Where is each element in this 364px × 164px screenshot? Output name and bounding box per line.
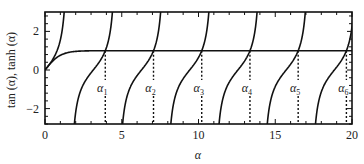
plot-frame bbox=[45, 12, 352, 124]
y-tick-label: −2 bbox=[26, 102, 39, 116]
y-tick-label: 0 bbox=[33, 63, 39, 77]
x-tick-label: 15 bbox=[269, 128, 281, 142]
root-label: α3 bbox=[194, 81, 204, 97]
y-axis-label: tan (α), tanh (α) bbox=[4, 32, 18, 108]
y-tick-label: 2 bbox=[33, 24, 39, 38]
x-tick-label: 20 bbox=[346, 128, 358, 142]
root-label: α6 bbox=[338, 81, 348, 97]
x-tick-label: 10 bbox=[193, 128, 205, 142]
root-guides: α1α2α3α4α5α6 bbox=[97, 51, 348, 124]
tanh-curve bbox=[45, 51, 352, 70]
x-tick-label: 5 bbox=[119, 128, 125, 142]
x-axis-label: α bbox=[195, 148, 202, 162]
x-tick-label: 0 bbox=[42, 128, 48, 142]
chart: α1α2α3α4α5α6 05101520−202 α tan (α), tan… bbox=[0, 0, 364, 164]
axis-ticks bbox=[45, 12, 352, 124]
root-label: α5 bbox=[290, 81, 300, 97]
root-label: α1 bbox=[97, 81, 107, 97]
root-label: α4 bbox=[242, 81, 252, 97]
root-label: α2 bbox=[145, 81, 155, 97]
